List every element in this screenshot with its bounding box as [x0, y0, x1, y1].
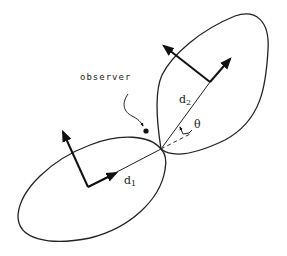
lower-lobe-outline: [18, 137, 166, 241]
d1-label: d1: [124, 174, 136, 188]
frame1-axis-up: [63, 132, 88, 187]
frame2-axis-upleft: [164, 46, 210, 82]
d1-extension-dashed: [161, 133, 192, 149]
frame2-axis-upright: [210, 59, 230, 82]
observer-pointer-arrow: [124, 94, 143, 126]
theta-label: θ: [194, 118, 201, 131]
d2-label: d2: [179, 93, 191, 107]
frame1-axis-right: [88, 173, 116, 187]
observer-dot: [143, 128, 148, 133]
observer-label: observer: [80, 72, 131, 82]
theta-leader: [183, 130, 192, 134]
diagram-canvas: observer d1 d2 θ: [0, 0, 287, 256]
theta-arrow: [180, 127, 183, 134]
upper-lobe-outline: [157, 14, 268, 154]
